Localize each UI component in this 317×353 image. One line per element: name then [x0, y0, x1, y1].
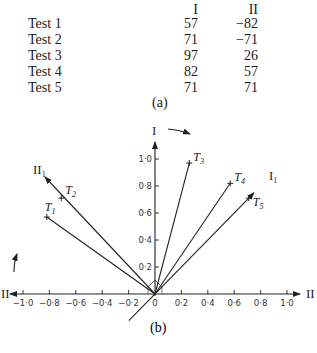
- test-point-subscript: 2: [72, 190, 76, 199]
- x-tick-label: 0·2: [175, 298, 189, 308]
- test-point-label: T1: [45, 200, 56, 216]
- x-tick-label: 0·4: [201, 298, 215, 308]
- x-tick-label: −0·2: [118, 298, 139, 308]
- horizontal-axis-label-left: II: [1, 286, 10, 301]
- test-point-label: T5: [253, 195, 264, 211]
- y-tick-label: 0·8: [138, 181, 152, 191]
- test-point-subscript: 4: [241, 177, 245, 186]
- test-point-label: T2: [65, 183, 76, 199]
- test-point-marker: [227, 180, 233, 186]
- rotated-axis-I1-label-subscript: 1: [273, 176, 277, 185]
- x-tick-label: 0·6: [227, 298, 241, 308]
- test-vector: [155, 163, 189, 294]
- y-tick-label: 0·2: [138, 262, 152, 272]
- test-point-subscript: 5: [259, 202, 263, 211]
- rotated-axis-I1-label: I1: [269, 168, 277, 185]
- y-tick-label: 0·6: [138, 208, 152, 218]
- rotated-axis-II1-label: II1: [33, 162, 46, 179]
- y-tick-label: 1·0: [138, 154, 152, 164]
- vertical-axis-label: I: [152, 123, 156, 138]
- test-vector: [155, 183, 230, 294]
- rotation-arrow-icon: [168, 129, 190, 134]
- x-tick-label: −0·8: [39, 298, 60, 308]
- factor-rotation-diagram: −1·0−0·8−0·6−0·4−0·200·20·40·60·81·00·20…: [0, 0, 317, 353]
- test-point-label: T4: [234, 170, 245, 186]
- x-tick-label: 0·8: [254, 298, 268, 308]
- test-point-subscript: 3: [199, 157, 204, 166]
- rotation-arrow-icon: [14, 254, 17, 272]
- horizontal-axis-label-right: II: [306, 286, 315, 301]
- x-tick-label: 0: [152, 298, 157, 308]
- test-vector: [47, 217, 155, 294]
- test-point-subscript: 1: [51, 207, 55, 216]
- rotated-axis-II1-label-subscript: 1: [42, 170, 46, 179]
- x-tick-label: −0·6: [65, 298, 86, 308]
- x-tick-label: −0·4: [92, 298, 113, 308]
- diagram-caption: (b): [150, 320, 167, 336]
- x-tick-label: 1·0: [280, 298, 294, 308]
- x-tick-label: −1·0: [13, 298, 34, 308]
- y-tick-label: 0·4: [138, 235, 152, 245]
- test-point-label: T3: [193, 150, 204, 166]
- test-point-marker: [186, 160, 192, 166]
